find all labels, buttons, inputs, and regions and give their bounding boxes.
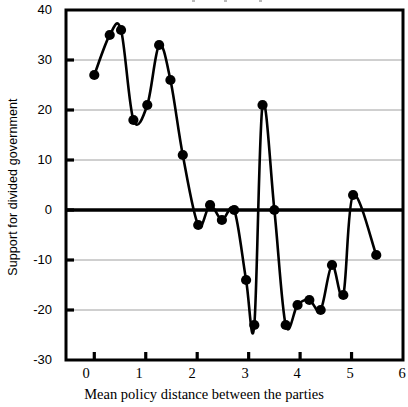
data-point-marker [249, 320, 259, 330]
data-point-marker [105, 30, 115, 40]
data-point-marker [348, 190, 358, 200]
data-point-marker [154, 40, 164, 50]
data-point-marker [165, 75, 175, 85]
data-point-marker [281, 320, 291, 330]
data-point-marker [128, 115, 138, 125]
data-point-marker [304, 295, 314, 305]
data-point-marker [142, 100, 152, 110]
x-axis-title: Mean policy distance between the parties [0, 386, 408, 403]
data-point-marker [269, 205, 279, 215]
data-point-marker [327, 260, 337, 270]
data-point-marker [338, 290, 348, 300]
data-point-marker [257, 100, 267, 110]
data-point-marker [292, 300, 302, 310]
plot-frame-rect [66, 10, 403, 360]
data-point-marker [241, 275, 251, 285]
plot-frame [66, 10, 403, 360]
grid-lines [66, 60, 403, 310]
data-point-marker [193, 220, 203, 230]
data-point-marker [371, 250, 381, 260]
data-point-marker [217, 215, 227, 225]
plot-area [0, 0, 408, 407]
data-point-marker [89, 70, 99, 80]
chart-figure: Support for divided government 40 30 20 … [0, 0, 408, 407]
data-point-marker [116, 25, 126, 35]
data-point-marker [229, 205, 239, 215]
data-point-marker [205, 200, 215, 210]
data-line [94, 23, 376, 333]
data-point-marker [178, 150, 188, 160]
data-point-marker [316, 305, 326, 315]
